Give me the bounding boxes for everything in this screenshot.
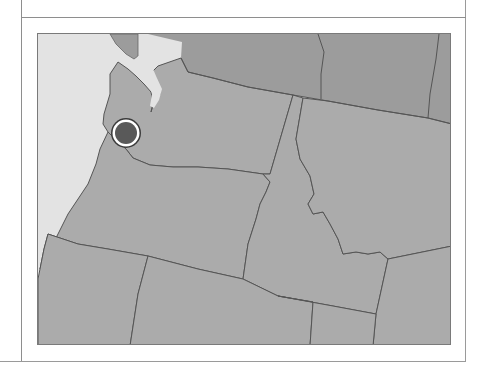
frame-border-right bbox=[465, 0, 466, 362]
map-panel[interactable]: Map of the Pacific Northwest with a loca… bbox=[37, 33, 451, 345]
frame-divider-bottom bbox=[0, 361, 466, 362]
header-strip bbox=[22, 0, 465, 17]
location-marker[interactable] bbox=[111, 118, 141, 148]
map-svg bbox=[38, 34, 451, 345]
frame-divider-top bbox=[21, 17, 466, 18]
frame-border-left bbox=[21, 0, 22, 362]
